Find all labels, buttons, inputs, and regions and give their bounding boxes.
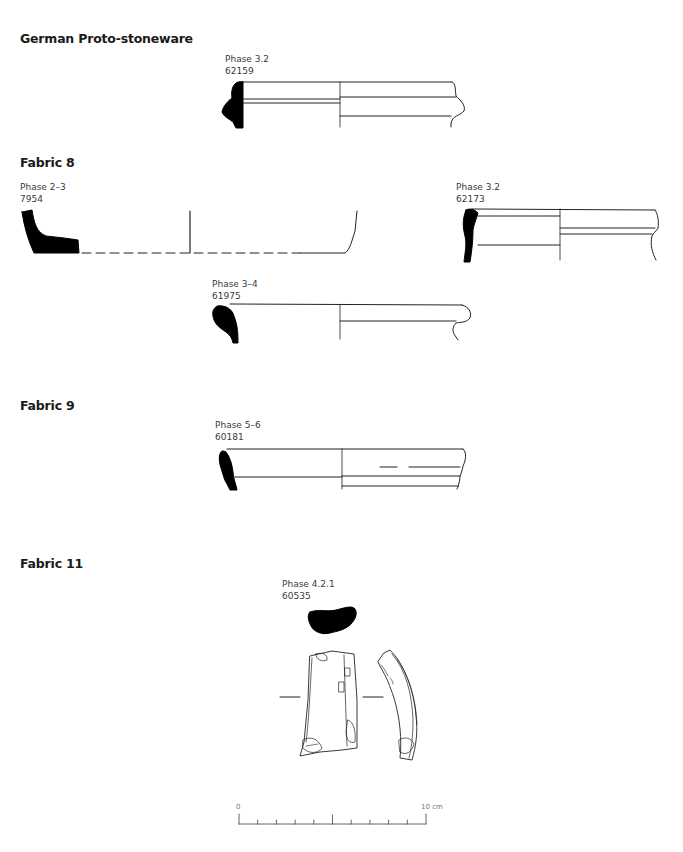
profile-61975 [213,304,471,343]
pottery-figure-page: German Proto-stoneware Fabric 8 Fabric 9… [0,0,683,852]
profile-62173 [463,209,658,262]
profile-7954 [22,210,357,253]
profile-60181 [219,449,465,490]
scale-bar [239,814,426,824]
scale-start-label: 0 [236,803,240,811]
profile-60535 [280,607,417,760]
scale-end-label: 10 cm [421,803,443,811]
profile-drawings [0,0,683,852]
profile-62159 [222,82,464,128]
